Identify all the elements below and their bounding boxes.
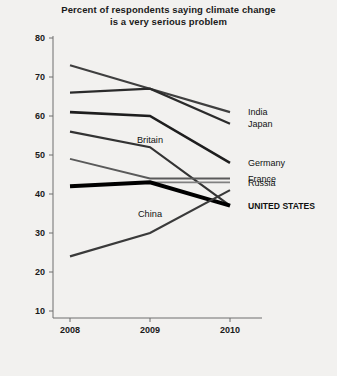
y-tick-label: 40 <box>35 189 45 199</box>
x-tick-label: 2008 <box>60 325 80 335</box>
y-axis: 8070605040302010 <box>35 33 53 318</box>
series-line-japan <box>70 89 230 124</box>
inline-label-britain: Britain <box>137 135 163 145</box>
x-axis: 200820092010 <box>53 318 262 335</box>
y-tick-label: 80 <box>35 33 45 43</box>
right-series-labels: IndiaJapanGermanyFranceRussiaUNITED STAT… <box>248 107 315 211</box>
y-tick-label: 10 <box>35 306 45 316</box>
x-tick-label: 2010 <box>220 325 240 335</box>
y-tick-label: 30 <box>35 228 45 238</box>
series-line-france <box>70 159 230 179</box>
series-label-germany: Germany <box>248 158 286 168</box>
series-label-russia: Russia <box>248 178 276 188</box>
series-lines <box>70 65 230 256</box>
x-tick-label: 2009 <box>140 325 160 335</box>
plot-area: 8070605040302010 200820092010 BritainChi… <box>0 0 337 376</box>
series-label-japan: Japan <box>248 119 273 129</box>
series-label-india: India <box>248 107 268 117</box>
y-tick-label: 70 <box>35 72 45 82</box>
inline-label-china: China <box>138 209 163 219</box>
y-tick-label: 20 <box>35 267 45 277</box>
y-tick-label: 60 <box>35 111 45 121</box>
chart-container: Percent of respondents saying climate ch… <box>0 0 337 376</box>
series-label-united-states: UNITED STATES <box>248 201 315 211</box>
y-tick-label: 50 <box>35 150 45 160</box>
chart-svg: 8070605040302010 200820092010 BritainChi… <box>0 0 337 376</box>
bottom-margin <box>0 366 337 376</box>
